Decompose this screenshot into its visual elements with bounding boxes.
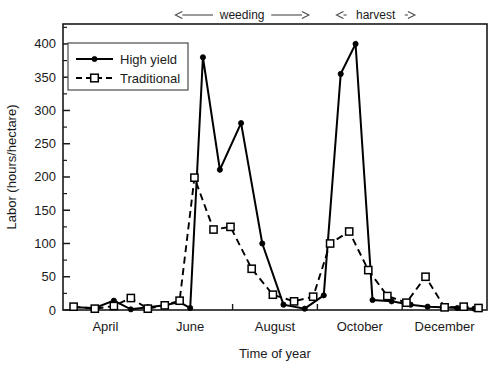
data-point-marker — [365, 266, 372, 273]
legend-marker-filled-circle — [92, 56, 97, 61]
y-axis-tick-labels: 050100150200250300350400 — [34, 36, 56, 317]
data-point-marker — [200, 55, 205, 60]
y-tick-label: 0 — [49, 303, 56, 318]
x-tick-label: October — [337, 319, 384, 334]
data-point-marker — [191, 174, 198, 181]
data-point-marker — [127, 294, 134, 301]
data-point-marker — [321, 293, 326, 298]
y-tick-label: 50 — [42, 269, 56, 284]
data-point-marker — [403, 299, 410, 306]
data-point-marker — [144, 305, 151, 312]
data-point-marker — [281, 302, 286, 307]
data-point-marker — [290, 298, 297, 305]
data-point-marker — [441, 304, 448, 311]
data-point-marker — [238, 121, 243, 126]
data-point-marker — [128, 307, 133, 312]
data-point-marker — [460, 303, 467, 310]
x-axis-tick-labels: AprilJuneAugustOctoberDecember — [92, 319, 475, 334]
data-point-marker — [227, 223, 234, 230]
annotation-label: weeding — [219, 8, 265, 22]
data-point-marker — [248, 265, 255, 272]
data-point-marker — [161, 302, 168, 309]
arrow-left-icon — [336, 11, 343, 18]
x-tick-label: December — [415, 319, 476, 334]
annotation-harvest: harvest — [336, 8, 414, 22]
chart-canvas: 050100150200250300350400 AprilJuneAugust… — [0, 0, 502, 371]
data-point-marker — [346, 228, 353, 235]
y-tick-label: 400 — [34, 36, 56, 51]
data-point-marker — [370, 297, 375, 302]
data-point-marker — [338, 71, 343, 76]
x-tick-label: April — [92, 319, 118, 334]
data-point-marker — [70, 303, 77, 310]
annotation-label: harvest — [356, 8, 396, 22]
arrow-left-icon — [175, 11, 182, 18]
chart-figure: 050100150200250300350400 AprilJuneAugust… — [0, 0, 502, 371]
legend-label: Traditional — [120, 71, 180, 86]
legend-marker-open-square — [91, 74, 99, 82]
data-point-marker — [384, 292, 391, 299]
y-tick-label: 100 — [34, 236, 56, 251]
arrow-right-icon — [408, 11, 415, 18]
x-axis-title: Time of year — [239, 346, 311, 361]
data-point-marker — [269, 291, 276, 298]
data-point-marker — [188, 305, 193, 310]
y-tick-label: 200 — [34, 169, 56, 184]
legend-label: High yield — [120, 52, 177, 67]
x-tick-label: August — [255, 319, 296, 334]
data-point-marker — [176, 297, 183, 304]
data-point-marker — [475, 304, 482, 311]
data-point-marker — [310, 293, 317, 300]
y-axis-title: Labor (hours/hectare) — [4, 104, 19, 229]
data-point-marker — [302, 306, 307, 311]
data-point-marker — [425, 304, 430, 309]
data-point-marker — [422, 273, 429, 280]
y-tick-label: 250 — [34, 136, 56, 151]
data-point-marker — [327, 240, 334, 247]
data-point-marker — [217, 167, 222, 172]
data-point-marker — [260, 241, 265, 246]
y-tick-label: 350 — [34, 70, 56, 85]
data-point-marker — [91, 305, 98, 312]
data-point-marker — [353, 41, 358, 46]
period-annotations: weedingharvest — [175, 8, 415, 22]
annotation-weeding: weeding — [175, 8, 309, 22]
y-tick-label: 300 — [34, 103, 56, 118]
x-tick-label: June — [176, 319, 204, 334]
chart-legend: High yieldTraditional — [68, 43, 188, 90]
arrow-right-icon — [302, 11, 309, 18]
data-point-marker — [110, 302, 117, 309]
data-point-marker — [210, 226, 217, 233]
y-tick-label: 150 — [34, 203, 56, 218]
